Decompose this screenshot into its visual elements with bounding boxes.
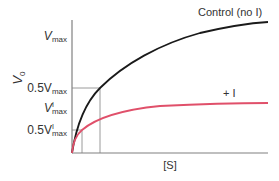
half-vimax-label: 0.5VImax [27, 123, 67, 138]
vmax-label: Vmax [44, 29, 67, 44]
vimax-label: VImax [44, 101, 67, 116]
control-series-label: Control (no I) [198, 6, 262, 18]
chart-canvas: Vmax 0.5Vmax VImax 0.5VImax V0 Control (… [0, 0, 279, 181]
inhibitor-series-label: + I [223, 87, 236, 99]
half-vmax-label: 0.5Vmax [27, 81, 67, 96]
x-axis-title: [S] [163, 159, 176, 171]
control-curve [72, 22, 268, 153]
inhibitor-curve [72, 103, 268, 153]
y-axis-title: V0 [10, 71, 27, 85]
